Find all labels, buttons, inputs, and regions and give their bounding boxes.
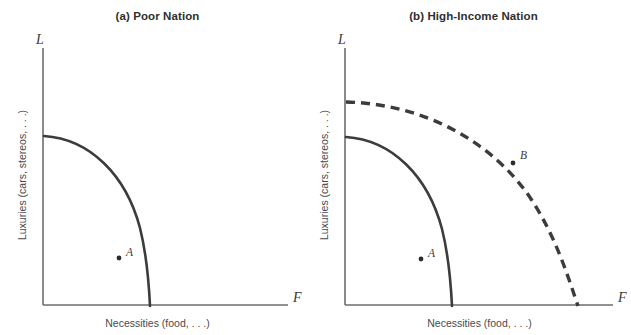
panel-b-point-b-label: B (520, 149, 527, 161)
panel-b-point-a-marker (419, 257, 424, 262)
panel-a-y-axis-label-text: Luxuries (cars, stereos, . . .) (16, 110, 28, 240)
panel-a-ppf-curve (44, 136, 150, 306)
panel-poor-nation: (a) Poor Nation L F A Luxuries (cars, st… (0, 0, 315, 335)
panel-b-ppf-solid-curve (346, 137, 452, 306)
panel-b-y-axis-label: Luxuries (cars, stereos, . . .) (316, 60, 332, 290)
panel-b-point-a-label: A (427, 247, 436, 259)
panel-a-x-axis-tip: F (292, 290, 302, 305)
panel-a-plot: L F A (0, 0, 315, 335)
panel-b-ppf-dashed-curve (346, 102, 578, 306)
figure-container: (a) Poor Nation L F A Luxuries (cars, st… (0, 0, 631, 335)
panel-a-y-axis-label: Luxuries (cars, stereos, . . .) (14, 60, 30, 290)
panel-a-x-axis-label: Necessities (food, . . .) (0, 317, 315, 329)
panel-a-point-a-marker (117, 256, 122, 261)
panel-b-x-axis-tip: F (617, 290, 627, 305)
panel-b-y-axis-tip: L (337, 32, 346, 47)
panel-b-point-b-marker (511, 161, 516, 166)
panel-b-y-axis-label-text: Luxuries (cars, stereos, . . .) (318, 110, 330, 240)
panel-a-point-a-label: A (125, 246, 134, 258)
panel-b-x-axis-label: Necessities (food, . . .) (316, 317, 631, 329)
panel-high-income-nation: (b) High-Income Nation L F A B Luxuries … (316, 0, 631, 335)
panel-a-y-axis-tip: L (35, 32, 44, 47)
panel-b-plot: L F A B (316, 0, 631, 335)
